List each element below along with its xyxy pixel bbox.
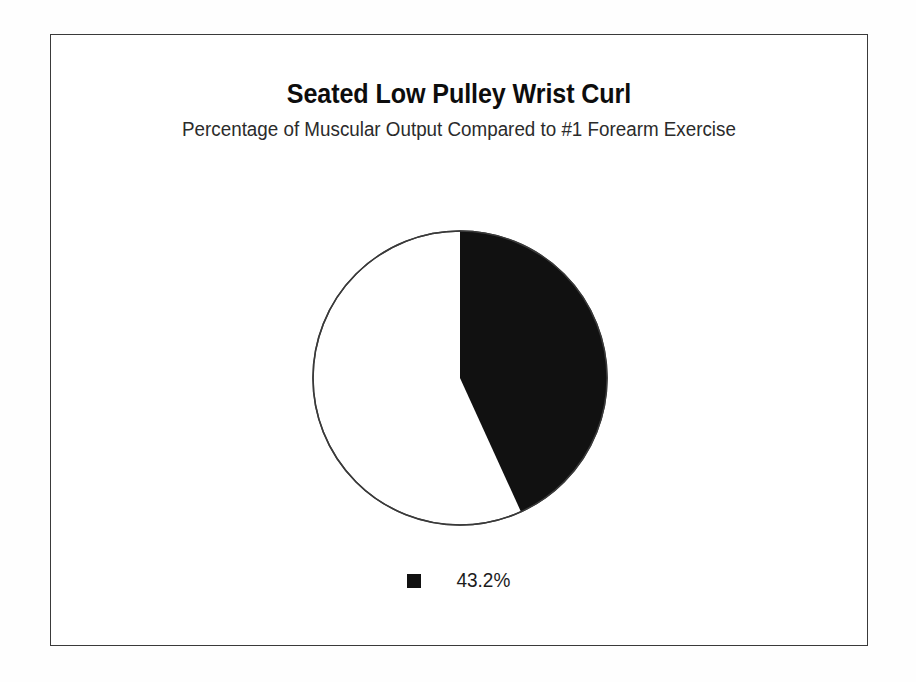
chart-subtitle: Percentage of Muscular Output Compared t… [75,118,842,141]
chart-frame: Seated Low Pulley Wrist Curl Percentage … [50,34,868,646]
page-canvas: Seated Low Pulley Wrist Curl Percentage … [0,0,916,682]
legend-swatch-icon [407,574,421,588]
legend-item-label: 43.2% [456,569,510,592]
page-title: Seated Low Pulley Wrist Curl [80,79,839,110]
pie-chart [311,229,609,527]
pie-chart-svg [311,229,609,527]
legend-item[interactable]: 43.2% [407,569,512,592]
chart-legend: 43.2% [51,569,867,592]
